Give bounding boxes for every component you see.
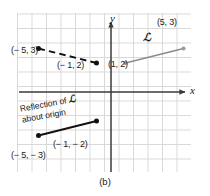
x-axis-label: x	[190, 84, 195, 96]
segment-line-L	[126, 49, 184, 64]
reflection-note-script-L: ℒ	[68, 93, 77, 105]
point-neg1-neg2	[94, 119, 99, 124]
label-point-neg1-neg2: (− 1, − 2)	[53, 139, 88, 149]
label-point-neg5-3: (− 5, 3)	[11, 45, 38, 55]
figure-panel: (− 5, 3) (− 1, 2) (1, 2) (5, 3) (− 1, − …	[0, 0, 210, 196]
plot-graphics	[0, 0, 210, 196]
label-point-neg1-2: (− 1, 2)	[57, 60, 84, 70]
point-neg5-neg3	[36, 133, 41, 138]
line-L-label: ℒ	[143, 31, 151, 44]
point-neg1-2	[94, 61, 99, 66]
label-point-1-2: (1, 2)	[108, 59, 128, 69]
label-point-neg5-neg3: (− 5, − 3)	[11, 150, 46, 160]
point-5-3	[181, 46, 185, 50]
label-point-5-3: (5, 3)	[157, 17, 177, 27]
figure-caption: (b)	[0, 176, 210, 187]
segment-solid-reflection-origin	[39, 121, 97, 136]
y-axis-label: y	[110, 12, 115, 24]
